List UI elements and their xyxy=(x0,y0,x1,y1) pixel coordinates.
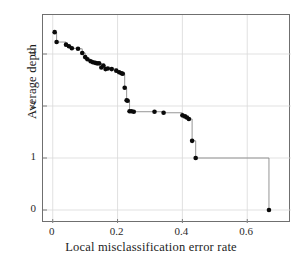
chart-canvas xyxy=(43,15,291,223)
data-point xyxy=(109,67,114,72)
data-points xyxy=(52,30,271,212)
data-point xyxy=(193,156,198,161)
data-point xyxy=(122,86,127,91)
data-point xyxy=(97,61,102,66)
gridlines xyxy=(43,15,291,223)
x-axis-title: Local misclassification error rate xyxy=(0,240,302,255)
data-point xyxy=(120,71,125,76)
y-tick-label: 0 xyxy=(18,202,36,214)
x-tick-label: 0 xyxy=(32,225,72,237)
figure-container: 00.20.40.6 0123 Local misclassification … xyxy=(0,0,302,262)
data-point xyxy=(52,30,57,35)
data-point xyxy=(76,47,81,52)
tick-marks xyxy=(43,54,247,223)
x-tick-label: 0.6 xyxy=(226,225,266,237)
data-point xyxy=(267,208,272,213)
data-point xyxy=(70,46,75,51)
data-point xyxy=(190,139,195,144)
data-point xyxy=(54,40,59,45)
data-point xyxy=(161,110,166,115)
x-tick-label: 0.4 xyxy=(161,225,201,237)
x-tick-label: 0.2 xyxy=(97,225,137,237)
data-point xyxy=(125,99,130,104)
data-point xyxy=(187,117,192,122)
data-point xyxy=(106,66,111,71)
data-point xyxy=(152,109,157,114)
y-axis-title: Average depth xyxy=(25,2,40,162)
data-point xyxy=(80,51,85,56)
plot-area xyxy=(42,14,290,222)
data-point xyxy=(131,109,136,114)
